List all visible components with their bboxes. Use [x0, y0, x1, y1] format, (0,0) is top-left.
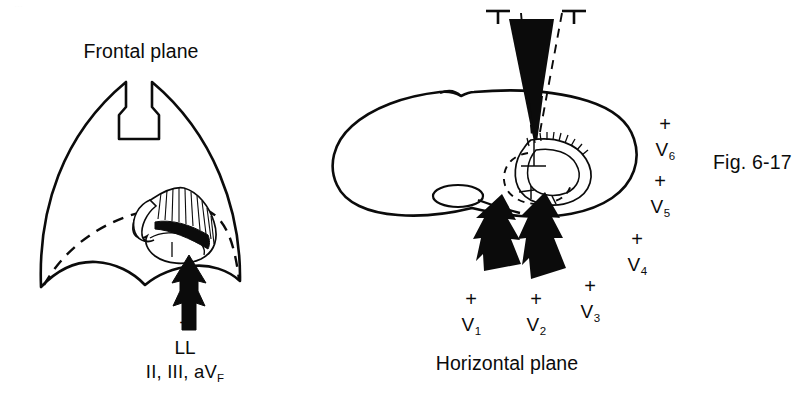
frontal-leads-text: II, III, aV [146, 361, 217, 382]
frontal-polarity-plus: + [179, 313, 191, 333]
frontal-leads-label: II, III, aVF [146, 363, 224, 382]
v1-polarity-plus: + [465, 289, 477, 309]
v1-lead-subscript: 1 [475, 325, 481, 337]
figure-caption: Fig. 6-17 [713, 153, 792, 173]
v4-lead-letter: V [627, 254, 640, 275]
v6-lead-letter: V [655, 139, 668, 160]
v4-lead-subscript: 4 [641, 265, 647, 277]
v2-polarity-plus: + [530, 289, 542, 309]
v2-lead-letter: V [526, 314, 539, 335]
frontal-torso-outline [41, 82, 240, 287]
v1-lead-letter: V [461, 314, 474, 335]
frontal-electrode-label: LL [174, 338, 195, 357]
v6-lead-subscript: 6 [669, 150, 675, 162]
v2-lead-label: V2 [526, 315, 545, 334]
v5-lead-label: V5 [650, 197, 669, 216]
v1-lead-label: V1 [461, 315, 480, 334]
v3-lead-letter: V [580, 301, 593, 322]
frontal-leads-subscript: F [217, 372, 224, 384]
v2-lead-subscript: 2 [540, 325, 546, 337]
v5-polarity-plus: + [654, 171, 666, 191]
aorta-cross-section [433, 185, 483, 207]
v5-lead-subscript: 5 [664, 207, 670, 219]
figure-root: … [0, 0, 802, 400]
v6-lead-label: V6 [655, 140, 674, 159]
horizontal-plane-title: Horizontal plane [436, 354, 579, 374]
v5-lead-letter: V [650, 196, 663, 217]
v3-polarity-plus: + [584, 276, 596, 296]
horizontal-torso-outline [333, 90, 637, 216]
v3-lead-subscript: 3 [594, 312, 600, 324]
v4-polarity-plus: + [631, 229, 643, 249]
v6-polarity-plus: + [659, 114, 671, 134]
frontal-plane-panel [41, 82, 240, 330]
frontal-plane-title: Frontal plane [83, 42, 198, 62]
v4-lead-label: V4 [627, 255, 646, 274]
horizontal-plane-panel [333, 11, 637, 279]
v3-lead-label: V3 [580, 302, 599, 321]
